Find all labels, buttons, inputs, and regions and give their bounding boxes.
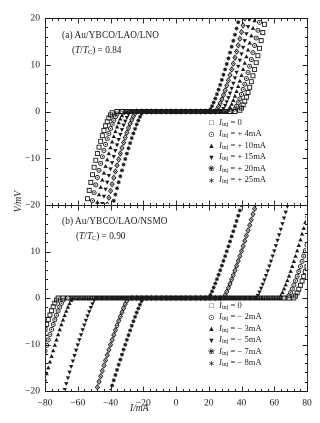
legend-row: ▼Iinj = + 15mA [206,152,266,164]
legend-value: = − 5mA [231,334,262,344]
legend-value: = − 8mA [231,357,262,367]
plus-marker-icon: ∗ [206,175,217,187]
legend-row: ∗Iinj = + 25mA [206,175,266,187]
square-marker-icon: □ [206,300,217,312]
legend-row: ⊙Iinj = + 4mA [206,129,266,141]
legend-value: = 0 [231,300,242,310]
legend-value: = + 25mA [231,174,266,184]
circle-marker-icon: ⊙ [206,129,217,141]
iv-characteristics-figure: (a) Au/YBCO/LAO/LNO (T/TC) = 0.84 (b) Au… [0,0,320,423]
legend-row: □Iinj = 0 [206,300,262,312]
plus-marker-icon: ∗ [206,358,217,370]
y-axis-label: V/mV [12,172,23,232]
legend-row: ⊙Iinj = − 2mA [206,312,262,324]
legend-value: = + 15mA [231,151,266,161]
legend-row: ▲Iinj = − 3mA [206,323,262,335]
legend-row: ❀Iinj = − 7mA [206,346,262,358]
triangle-up-marker-icon: ▲ [206,323,217,335]
legend-label: Iinj = − 8mA [217,357,262,370]
legend-row: □Iinj = 0 [206,117,266,129]
panel-a-ratio: 0.84 [105,45,121,55]
legend-value: = − 3mA [231,323,262,333]
circle-marker-icon: ⊙ [206,312,217,324]
y-axis-label-text: V/mV [12,191,23,212]
legend-value: = 0 [231,117,242,127]
legend-panel-a: □Iinj = 0⊙Iinj = + 4mA▲Iinj = + 10mA▼Iin… [206,117,266,187]
panel-b-subtitle: (T/TC) = 0.90 [76,231,125,241]
legend-value: = + 4mA [231,128,262,138]
square-marker-icon: □ [206,117,217,129]
x-axis-label-text: I/mA [130,402,149,413]
diamond-marker-icon: ❀ [206,346,217,358]
triangle-down-marker-icon: ▼ [206,152,217,164]
legend-row: ▼Iinj = − 5mA [206,335,262,347]
legend-value: = − 2mA [231,311,262,321]
legend-panel-b: □Iinj = 0⊙Iinj = − 2mA▲Iinj = − 3mA▼Iinj… [206,300,262,370]
legend-row: ∗Iinj = − 8mA [206,358,262,370]
legend-value: = + 20mA [231,163,266,173]
panel-a-title: (a) Au/YBCO/LAO/LNO [62,30,159,40]
legend-label: Iinj = + 25mA [217,174,266,187]
diamond-marker-icon: ❀ [206,163,217,175]
panel-b-ratio: 0.90 [109,231,125,241]
legend-value: = − 7mA [231,346,262,356]
triangle-down-marker-icon: ▼ [206,335,217,347]
panel-b-title: (b) Au/YBCO/LAO/NSMO [62,216,168,226]
iv-plot-canvas [0,0,320,423]
x-axis-label: I/mA [130,402,149,413]
legend-value: = + 10mA [231,140,266,150]
legend-row: ▲Iinj = + 10mA [206,140,266,152]
triangle-up-marker-icon: ▲ [206,140,217,152]
panel-a-subtitle: (T/TC) = 0.84 [72,45,121,55]
legend-row: ❀Iinj = + 20mA [206,163,266,175]
